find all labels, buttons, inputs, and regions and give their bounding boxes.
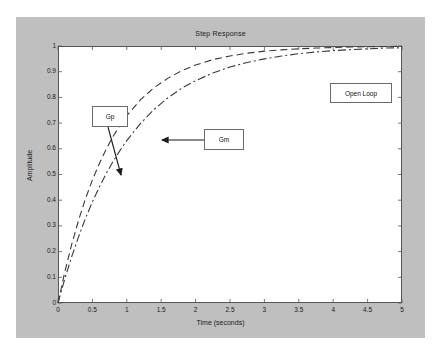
annotation-open-loop[interactable]: Open Loop xyxy=(330,83,392,103)
annotation-gp[interactable]: Gp xyxy=(92,106,128,127)
annotation-gm[interactable]: Gm xyxy=(204,129,244,150)
chart-svg xyxy=(16,17,425,338)
annotation-arrows xyxy=(108,127,204,175)
figure-canvas: Step Response Amplitude Time (seconds) 0… xyxy=(16,17,425,338)
